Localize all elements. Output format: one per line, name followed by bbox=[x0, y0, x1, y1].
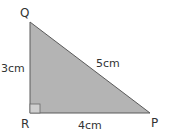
vertex-label-r: R bbox=[21, 117, 29, 131]
vertex-label-p: P bbox=[151, 116, 158, 130]
side-label-qr: 3cm bbox=[1, 62, 25, 75]
right-angle-marker bbox=[30, 104, 40, 113]
side-label-qp: 5cm bbox=[96, 57, 120, 70]
side-label-rp: 4cm bbox=[78, 119, 102, 132]
triangle-diagram: Q R P 3cm 5cm 4cm bbox=[0, 0, 170, 133]
vertex-label-q: Q bbox=[20, 6, 29, 20]
triangle-pqr bbox=[30, 22, 150, 113]
